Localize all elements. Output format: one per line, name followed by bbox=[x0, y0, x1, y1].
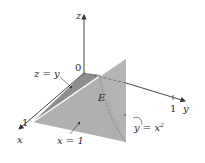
label-y-eq-x2-exp: 2 bbox=[159, 121, 164, 128]
y-axis bbox=[126, 83, 185, 101]
leader-z-eq-y bbox=[60, 77, 72, 88]
z-axis-label: z bbox=[75, 10, 82, 21]
point-marker bbox=[124, 114, 126, 116]
x-axis-label: x bbox=[17, 134, 23, 145]
label-y-eq-x2: y = x2 bbox=[133, 121, 164, 133]
origin-label: 0 bbox=[75, 62, 81, 73]
region-label: E bbox=[97, 92, 106, 103]
region-diagram: z 0 1 y 1 x E z = y x = 1 y = x2 bbox=[0, 0, 205, 163]
label-z-eq-y: z = y bbox=[33, 68, 60, 79]
x-tick-label: 1 bbox=[22, 117, 28, 128]
y-tick-label: 1 bbox=[170, 103, 176, 114]
y-axis-label: y bbox=[182, 103, 189, 114]
label-x-eq-1: x = 1 bbox=[57, 135, 84, 146]
label-y-eq-x2-base: y = x bbox=[133, 122, 160, 133]
